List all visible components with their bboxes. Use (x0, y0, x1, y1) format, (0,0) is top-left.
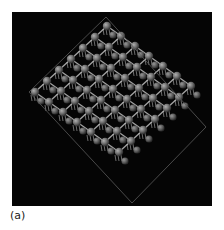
atom (113, 127, 121, 135)
atom (127, 137, 135, 145)
atom (123, 95, 131, 103)
lattice-image (12, 12, 212, 206)
atom (125, 62, 132, 69)
atom (143, 114, 150, 121)
atom (61, 75, 68, 82)
atom (79, 127, 86, 134)
bond-stub (97, 103, 98, 109)
bond-stub (55, 73, 56, 79)
atom (115, 148, 123, 156)
bond-stub (101, 145, 102, 151)
atom (93, 54, 101, 62)
atom (71, 97, 79, 105)
bond-stub (123, 102, 124, 108)
atom (57, 87, 65, 95)
atom (109, 31, 116, 38)
atom (45, 98, 53, 106)
bond-stub (105, 50, 106, 56)
bond-stub (115, 155, 116, 161)
atom (129, 104, 136, 111)
bond-stub (69, 83, 70, 89)
atom (111, 52, 118, 59)
bond-stub (85, 114, 86, 120)
bond-stub (119, 60, 120, 66)
bond-stub (137, 112, 138, 118)
atom (73, 64, 80, 71)
atom (51, 107, 58, 114)
atom (139, 72, 146, 79)
bond-stub (73, 125, 74, 131)
atom (113, 73, 120, 80)
atom (91, 33, 99, 41)
bond-stub (31, 95, 32, 101)
atom (139, 126, 147, 134)
bond-stub (109, 92, 110, 98)
atom (179, 81, 186, 88)
bond-stub (159, 69, 160, 75)
atom (83, 86, 91, 94)
bond-stub (147, 80, 148, 86)
atom (85, 53, 92, 60)
atom (119, 53, 127, 61)
atom (63, 96, 70, 103)
atom (119, 136, 126, 143)
atom (87, 128, 95, 136)
bond-stub (121, 81, 122, 87)
atom (107, 147, 114, 154)
atom (137, 105, 145, 113)
bond-stub (173, 79, 174, 85)
atom (93, 137, 100, 144)
bond-stub (127, 144, 128, 150)
atom (133, 63, 141, 71)
atom (155, 103, 162, 110)
atom (103, 22, 111, 30)
atom (147, 73, 155, 81)
atom (151, 61, 158, 68)
bond-stub (131, 49, 132, 55)
bond-stub (99, 124, 100, 130)
atom (101, 138, 109, 146)
atom (131, 125, 138, 132)
atom (193, 91, 200, 98)
atom (115, 94, 122, 101)
atom (105, 43, 113, 51)
atom (91, 116, 98, 123)
atom (87, 74, 94, 81)
atom (153, 82, 160, 89)
bond-stub (139, 133, 140, 139)
atom (67, 55, 75, 63)
atom (133, 146, 140, 153)
atom (105, 126, 112, 133)
atom (37, 97, 44, 104)
atom (69, 76, 77, 84)
bond-stub (113, 134, 114, 140)
atom (59, 108, 67, 116)
atom (101, 84, 108, 91)
atom (73, 118, 81, 126)
bond-stub (43, 84, 44, 90)
atom (49, 86, 56, 93)
bond-stub (111, 113, 112, 119)
bond-stub (149, 101, 150, 107)
bond-stub (103, 29, 104, 35)
bond-stub (93, 61, 94, 67)
atom (107, 64, 115, 72)
atom (161, 83, 169, 91)
atom (109, 85, 117, 93)
atom (135, 84, 143, 92)
atom (173, 72, 181, 80)
atom (149, 94, 157, 102)
bond-stub (87, 135, 88, 141)
bond-stub (135, 91, 136, 97)
bond-stub (107, 71, 108, 77)
panel-label: (a) (10, 209, 25, 223)
bond-stub (71, 104, 72, 110)
bond-stub (67, 62, 68, 68)
bond-stub (151, 122, 152, 128)
bond-stub (79, 51, 80, 57)
crystal-structure-render (12, 12, 212, 206)
bond-stub (81, 72, 82, 78)
atom (111, 106, 119, 114)
atom (99, 63, 106, 70)
atom (65, 117, 72, 124)
